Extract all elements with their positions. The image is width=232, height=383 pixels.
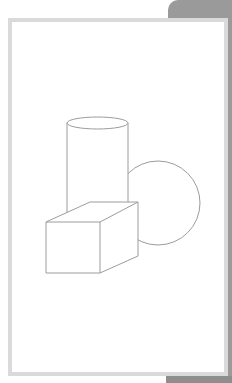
cylinder-shape xyxy=(67,117,128,213)
box-shape xyxy=(46,202,138,273)
geometric-solids-drawing xyxy=(0,0,232,383)
